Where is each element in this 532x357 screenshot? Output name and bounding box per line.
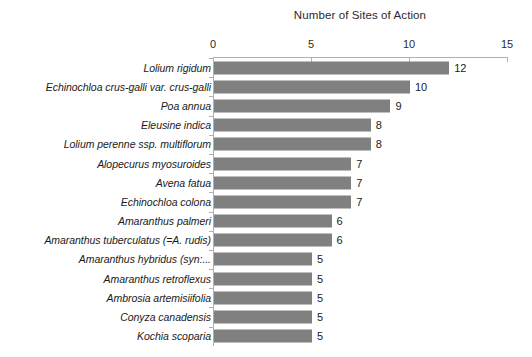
value-axis-tick-label: 0 — [193, 38, 233, 50]
bar-row[interactable]: Conyza canadensis5 — [0, 307, 532, 326]
category-axis-tick-mark — [209, 288, 213, 289]
bar[interactable] — [214, 195, 351, 208]
bar-value-label: 5 — [317, 292, 323, 304]
category-axis-tick-mark — [209, 307, 213, 308]
category-label: Echinochloa crus-galli var. crus-galli — [46, 81, 211, 93]
category-axis-tick-mark — [209, 192, 213, 193]
bar-row[interactable]: Amaranthus palmeri6 — [0, 212, 532, 231]
bar[interactable] — [214, 330, 312, 343]
category-axis-tick-mark — [209, 212, 213, 213]
bar-value-label: 5 — [317, 311, 323, 323]
bar-row[interactable]: Amaranthus tuberculatus (=A. rudis)6 — [0, 231, 532, 250]
bar-value-label: 5 — [317, 253, 323, 265]
bar[interactable] — [214, 234, 332, 247]
bar[interactable] — [214, 157, 351, 170]
bar[interactable] — [214, 176, 351, 189]
category-axis-tick-mark — [209, 96, 213, 97]
bar-value-label: 7 — [356, 177, 362, 189]
bar-value-label: 7 — [356, 196, 362, 208]
category-label: Amaranthus tuberculatus (=A. rudis) — [44, 234, 211, 246]
bar-value-label: 7 — [356, 158, 362, 170]
bar-row[interactable]: Amaranthus retroflexus5 — [0, 269, 532, 288]
bar[interactable] — [214, 215, 332, 228]
bar-row[interactable]: Lolium rigidum12 — [0, 58, 532, 77]
category-label: Poa annua — [161, 100, 211, 112]
value-axis-tick-label: 10 — [389, 38, 429, 50]
bar-row[interactable]: Avena fatua7 — [0, 173, 532, 192]
bar-row[interactable]: Kochia scoparia5 — [0, 327, 532, 346]
bar-value-label: 10 — [415, 81, 427, 93]
bar-row[interactable]: Ambrosia artemisiifolia5 — [0, 288, 532, 307]
bar-row[interactable]: Echinochloa colona7 — [0, 192, 532, 211]
category-label: Conyza canadensis — [120, 311, 211, 323]
category-label: Avena fatua — [156, 177, 211, 189]
category-axis-tick-mark — [209, 327, 213, 328]
category-axis-tick-mark — [209, 58, 213, 59]
bar-chart: Number of Sites of Action 051015 Lolium … — [0, 0, 532, 357]
bar-value-label: 8 — [376, 138, 382, 150]
category-label: Lolium perenne ssp. multiflorum — [64, 138, 211, 150]
bar[interactable] — [214, 311, 312, 324]
bar[interactable] — [214, 99, 390, 112]
category-label: Amaranthus palmeri — [118, 215, 211, 227]
bar[interactable] — [214, 272, 312, 285]
category-label: Lolium rigidum — [143, 62, 211, 74]
bar-row[interactable]: Amaranthus hybridus (syn:...5 — [0, 250, 532, 269]
bar-row[interactable]: Eleusine indica8 — [0, 116, 532, 135]
value-axis-tick-label: 5 — [291, 38, 331, 50]
value-axis-tick-label: 15 — [487, 38, 527, 50]
category-label: Alopecurus myosuroides — [97, 158, 211, 170]
bar-value-label: 12 — [454, 62, 466, 74]
bar-value-label: 6 — [337, 234, 343, 246]
category-label: Amaranthus hybridus (syn:... — [79, 253, 211, 265]
bar[interactable] — [214, 291, 312, 304]
category-axis-tick-mark — [209, 135, 213, 136]
bar[interactable] — [214, 61, 449, 74]
category-label: Eleusine indica — [141, 119, 211, 131]
category-label: Echinochloa colona — [121, 196, 211, 208]
bar-value-label: 9 — [395, 100, 401, 112]
bar-rows: Lolium rigidum12Echinochloa crus-galli v… — [0, 58, 532, 346]
bar-value-label: 6 — [337, 215, 343, 227]
chart-title: Number of Sites of Action — [213, 9, 507, 21]
bar-row[interactable]: Poa annua9 — [0, 96, 532, 115]
bar[interactable] — [214, 119, 371, 132]
category-axis-tick-mark — [209, 116, 213, 117]
category-axis-tick-mark — [209, 250, 213, 251]
category-label: Ambrosia artemisiifolia — [107, 292, 211, 304]
bar-value-label: 5 — [317, 330, 323, 342]
category-axis-tick-mark — [209, 154, 213, 155]
category-axis-tick-mark — [209, 173, 213, 174]
bar-value-label: 5 — [317, 273, 323, 285]
bar[interactable] — [214, 138, 371, 151]
category-axis-tick-mark — [209, 77, 213, 78]
bar-value-label: 8 — [376, 119, 382, 131]
bar[interactable] — [214, 80, 410, 93]
category-label: Kochia scoparia — [137, 330, 211, 342]
bar[interactable] — [214, 253, 312, 266]
bar-row[interactable]: Lolium perenne ssp. multiflorum8 — [0, 135, 532, 154]
category-axis-tick-mark — [209, 231, 213, 232]
category-label: Amaranthus retroflexus — [104, 273, 211, 285]
bar-row[interactable]: Alopecurus myosuroides7 — [0, 154, 532, 173]
bar-row[interactable]: Echinochloa crus-galli var. crus-galli10 — [0, 77, 532, 96]
category-axis-tick-mark — [209, 269, 213, 270]
